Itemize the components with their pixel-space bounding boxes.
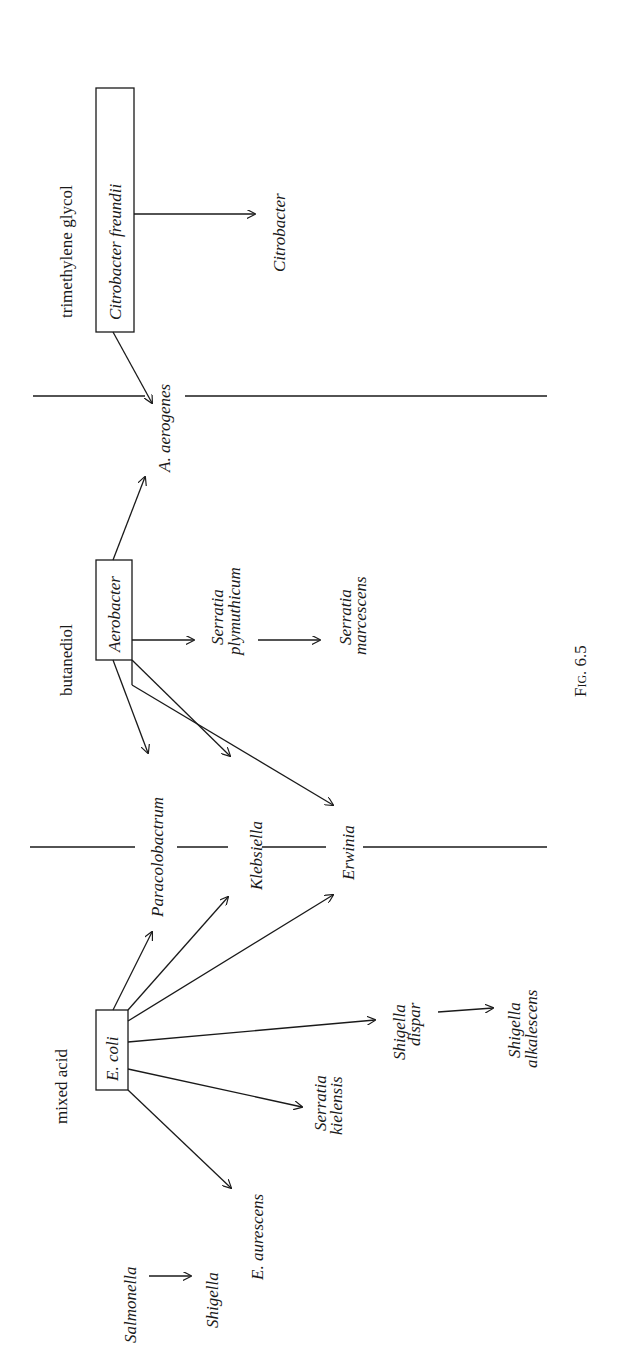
box-label-citrobacter-freundii: Citrobacter freundii [106, 184, 125, 320]
label-citrobacter: Citrobacter [270, 193, 289, 272]
box-label-e-coli: E. coli [103, 1036, 122, 1082]
label-paracolobactrum: Paracolobactrum [148, 797, 167, 918]
label-shigella-alkalescens-2: alkalescens [522, 989, 541, 1068]
label-shigella: Shigella [203, 1272, 222, 1328]
label-mixed-acid: mixed acid [52, 1048, 71, 1124]
figure-6-5: trimethylene glycol butanediol mixed aci… [0, 0, 617, 1346]
box-e-coli: E. coli [96, 1010, 128, 1090]
label-serratia-plymuthicum-2: plymuthicum [225, 567, 244, 656]
label-klebsiella: Klebsiella [247, 821, 266, 891]
label-butanediol: butanediol [57, 624, 76, 696]
label-trimethylene-glycol: trimethylene glycol [57, 185, 76, 318]
arrows-e-coli [113, 895, 493, 1188]
box-aerobacter: Aerobacter [96, 560, 132, 660]
label-shigella-dispar-2: dispar [405, 1002, 424, 1046]
label-serratia-kielensis-2: kielensis [327, 1076, 346, 1135]
box-label-aerobacter: Aerobacter [105, 576, 124, 653]
label-a-aerogenes: A. aerogenes [155, 383, 174, 473]
label-erwinia: Erwinia [339, 825, 358, 881]
label-salmonella: Salmonella [121, 1267, 140, 1344]
box-citrobacter-freundii: Citrobacter freundii [96, 88, 134, 332]
diagram-canvas: trimethylene glycol butanediol mixed aci… [0, 0, 617, 1346]
figure-caption: Fig. 6.5 [571, 645, 590, 697]
label-e-aurescens: E. aurescens [248, 1193, 267, 1281]
label-serratia-marcescens-2: marcescens [351, 576, 370, 655]
